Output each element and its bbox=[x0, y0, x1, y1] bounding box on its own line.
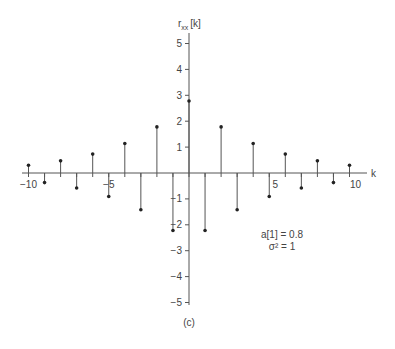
stem-marker bbox=[139, 208, 143, 212]
y-axis-label: rxx[k] bbox=[178, 18, 201, 31]
stem-marker bbox=[27, 163, 31, 167]
axes bbox=[22, 33, 367, 305]
y-tick-label: −1 bbox=[171, 193, 183, 204]
stem-marker bbox=[251, 142, 255, 146]
y-tick-label: 1 bbox=[176, 142, 182, 153]
stem-marker bbox=[235, 208, 239, 212]
stem-marker bbox=[316, 159, 320, 163]
y-tick-label: −4 bbox=[171, 271, 183, 282]
stem-marker bbox=[187, 99, 191, 103]
y-tick-label: 2 bbox=[176, 116, 182, 127]
y-tick-label: 4 bbox=[176, 64, 182, 75]
stem-marker bbox=[284, 152, 288, 156]
stem-marker bbox=[300, 186, 304, 190]
stem-marker bbox=[267, 195, 271, 199]
y-tick-label: 3 bbox=[176, 90, 182, 101]
stem-marker bbox=[155, 125, 159, 129]
y-tick-label: 5 bbox=[176, 38, 182, 49]
y-tick-label: −5 bbox=[171, 297, 183, 308]
annotation-a1: a[1] = 0.8 bbox=[261, 229, 303, 240]
stem-marker bbox=[123, 142, 127, 146]
stem-marker bbox=[91, 152, 95, 156]
y-tick-label: −3 bbox=[171, 245, 183, 256]
stem-marker bbox=[219, 125, 223, 129]
stem-marker bbox=[59, 159, 63, 163]
stem-marker bbox=[203, 229, 207, 233]
y-tick-label: −2 bbox=[171, 219, 183, 230]
x-axis-label: k bbox=[371, 168, 377, 179]
stem-marker bbox=[43, 181, 47, 185]
x-tick-label: 10 bbox=[350, 179, 362, 190]
figure-caption: (c) bbox=[183, 317, 195, 328]
annotation-sigma: σ² = 1 bbox=[269, 241, 296, 252]
stem-marker bbox=[348, 163, 352, 167]
stem-plot: 54321−1−2−3−4−5−10−5510 rxx[k] k a[1] = … bbox=[0, 0, 395, 349]
x-tick-label: −10 bbox=[20, 179, 37, 190]
stem-marker bbox=[107, 195, 111, 199]
stem-marker bbox=[75, 186, 79, 190]
stem-marker bbox=[332, 181, 336, 185]
x-tick-label: −5 bbox=[103, 179, 115, 190]
x-tick-label: 5 bbox=[272, 179, 278, 190]
